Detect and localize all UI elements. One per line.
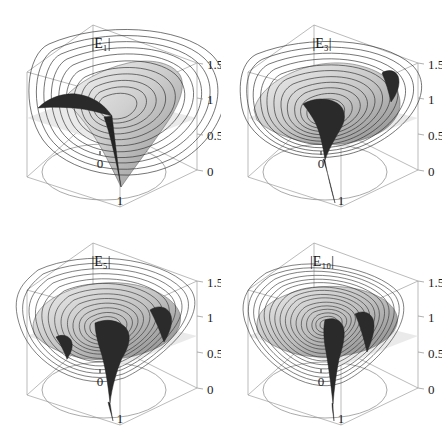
z-tick-0.5: 0.5 [428,128,442,143]
z-tick-0: 0 [207,164,214,179]
surface-cusp-fall [323,159,335,203]
panel-E1-title: |E₁| [91,36,110,51]
z-tick-1.5: 1.5 [428,275,442,290]
z-tick-1.5: 1.5 [207,57,221,72]
figure-panel-grid: |E₁| 1.5 1 0.5 0 0 1 [0,0,443,436]
base-unit-circle [42,362,166,418]
z-tick-1.5: 1.5 [428,57,442,72]
z-tick-1: 1 [207,92,214,107]
panel-E5-title: |E₅| [91,254,110,269]
z-tick-0.5: 0.5 [428,346,442,361]
z-tick-1: 1 [428,92,435,107]
z-tick-1: 1 [207,310,214,325]
z-axis-ticks [197,281,203,389]
panel-E3: |E₃| 1.5 1 0.5 0 0 1 [221,0,442,218]
panel-E10: |E₁₀| 1.5 1 0.5 0 0 1 [221,218,442,436]
panel-E3-plot: |E₃| 1.5 1 0.5 0 0 1 [221,0,442,218]
z-tick-0.5: 0.5 [207,128,221,143]
radial-label-1: 1 [117,193,124,208]
radial-label-1: 1 [117,411,124,426]
z-axis-ticks [197,63,203,171]
z-tick-0: 0 [207,382,214,397]
z-tick-0: 0 [428,382,435,397]
origin-label: 0 [318,156,325,171]
radial-label-1: 1 [338,411,345,426]
origin-label: 0 [97,156,104,171]
z-tick-0.5: 0.5 [207,346,221,361]
panel-E1-plot: |E₁| 1.5 1 0.5 0 0 1 [0,0,221,218]
panel-E5-plot: |E₅| 1.5 1 0.5 0 0 1 [0,218,221,436]
panel-E10-title: |E₁₀| [310,254,334,269]
z-axis-ticks [418,281,424,389]
panel-E5: |E₅| 1.5 1 0.5 0 0 1 [0,218,221,436]
z-tick-1: 1 [428,310,435,325]
z-tick-1.5: 1.5 [207,275,221,290]
z-tick-0: 0 [428,164,435,179]
radial-label-1: 1 [338,193,345,208]
origin-label: 0 [318,374,325,389]
origin-label: 0 [97,374,104,389]
panel-E10-plot: |E₁₀| 1.5 1 0.5 0 0 1 [221,218,442,436]
panel-E1: |E₁| 1.5 1 0.5 0 0 1 [0,0,221,218]
surface-cusp-fall [332,403,334,421]
panel-E3-title: |E₃| [312,36,331,51]
